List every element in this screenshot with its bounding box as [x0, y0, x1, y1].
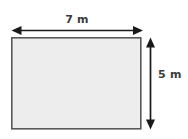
width-dimension-label: 7 m: [0, 14, 154, 25]
height-arrowhead-top-icon: [146, 38, 155, 48]
width-arrowhead-left-icon: [12, 26, 22, 35]
height-arrowhead-bottom-icon: [146, 120, 155, 130]
width-arrowhead-right-icon: [133, 26, 143, 35]
rectangle-shape: [12, 38, 141, 129]
width-dimension-arrow: [12, 26, 144, 35]
height-dimension-label: 5 m: [158, 69, 182, 80]
height-dimension-arrow: [146, 38, 155, 130]
rectangle-dimension-diagram: 7 m 5 m: [0, 0, 188, 139]
